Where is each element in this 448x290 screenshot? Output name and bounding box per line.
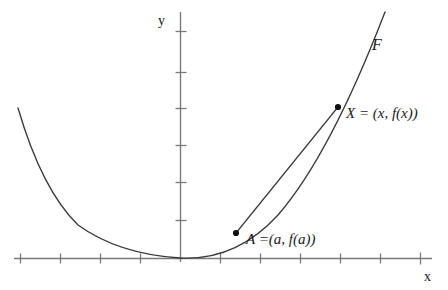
point-A-label: A =(a, f(a)): [246, 232, 315, 247]
secant-line-AX: [236, 107, 338, 233]
figure-canvas: y x F A =(a, f(a)) X = (x, f(x)): [0, 0, 448, 290]
x-axis-label: x: [424, 270, 431, 284]
curve-label-F: F: [372, 37, 382, 53]
y-axis-label: y: [158, 14, 165, 28]
point-X-marker: [335, 104, 341, 110]
point-X-label: X = (x, f(x)): [346, 106, 418, 121]
curve-F: [18, 12, 385, 258]
point-A-marker: [233, 230, 239, 236]
